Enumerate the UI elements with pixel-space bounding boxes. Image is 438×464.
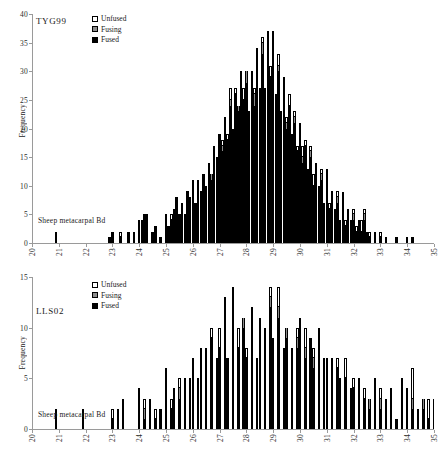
histogram-bar xyxy=(363,388,365,429)
y-tick-mark xyxy=(29,129,32,130)
bar-segment-fused xyxy=(111,419,113,429)
bar-segment-fused xyxy=(178,399,180,429)
bar-segment-unfused xyxy=(336,358,338,368)
bar-segment-fused xyxy=(55,232,57,243)
histogram-bar xyxy=(427,399,429,429)
x-tick-mark xyxy=(166,244,167,247)
x-tick-label: 22 xyxy=(82,434,91,442)
histogram-bar xyxy=(326,358,328,429)
x-tick-mark xyxy=(434,430,435,433)
x-tick-mark xyxy=(112,430,113,433)
y-tick-label: 15 xyxy=(20,153,28,162)
histogram-bar xyxy=(200,348,202,429)
bar-segment-fusing xyxy=(245,71,247,82)
x-tick-label: 35 xyxy=(430,434,438,442)
legend-swatch-unfused-icon xyxy=(92,16,98,22)
histogram-bar xyxy=(173,388,175,429)
bar-segment-unfused xyxy=(218,328,220,348)
x-tick-label: 33 xyxy=(376,434,385,442)
x-tick-label: 31 xyxy=(323,434,332,442)
bar-segment-fused xyxy=(146,232,148,243)
histogram-bar xyxy=(331,358,333,429)
bar-segment-fused xyxy=(374,232,376,243)
bar-segment-fused xyxy=(422,409,424,429)
y-tick-mark xyxy=(29,378,32,379)
bar-segment-unfused xyxy=(256,48,258,59)
bar-segment-fused xyxy=(149,399,151,429)
x-tick-mark xyxy=(220,244,221,247)
bar-segment-unfused xyxy=(352,209,354,215)
bar-segment-unfused xyxy=(320,169,322,175)
x-tick-label: 29 xyxy=(269,434,278,442)
x-tick-mark xyxy=(246,430,247,433)
bar-segment-fused xyxy=(363,399,365,429)
histogram-bar xyxy=(111,409,113,429)
histogram-bar xyxy=(154,226,156,243)
bar-segment-unfused xyxy=(229,88,231,99)
bar-segment-fusing xyxy=(315,163,317,169)
legend-item-fusing: Fusing xyxy=(92,25,126,34)
x-axis-line xyxy=(32,243,434,244)
bar-segment-unfused xyxy=(385,399,387,419)
bar-segment-fused xyxy=(299,328,301,429)
y-tick-label: 20 xyxy=(20,124,28,133)
bar-segment-fused xyxy=(200,358,202,429)
histogram-bar xyxy=(159,409,161,429)
bar-segment-unfused xyxy=(146,214,148,231)
x-tick-mark xyxy=(300,430,301,433)
y-tick-label: 30 xyxy=(20,67,28,76)
histogram-bar xyxy=(395,419,397,429)
bar-segment-fused xyxy=(154,226,156,243)
x-tick-mark xyxy=(407,430,408,433)
bar-segment-fusing xyxy=(379,399,381,409)
histogram-bar xyxy=(111,232,113,243)
bar-segment-fused xyxy=(133,232,135,243)
y-tick-mark xyxy=(29,157,32,158)
x-tick-mark xyxy=(354,244,355,247)
x-tick-label: 34 xyxy=(403,248,412,256)
y-tick-mark xyxy=(29,328,32,329)
y-tick-mark xyxy=(29,214,32,215)
bar-segment-unfused xyxy=(293,111,295,117)
bar-segment-fusing xyxy=(272,37,274,48)
y-tick-label: 15 xyxy=(20,273,28,282)
legend-label-fused: Fused xyxy=(101,301,119,310)
y-tick-mark xyxy=(29,277,32,278)
x-tick-mark xyxy=(112,244,113,247)
histogram-bar xyxy=(55,232,57,243)
histogram-bar xyxy=(285,328,287,429)
x-tick-mark xyxy=(273,244,274,247)
bar-segment-fusing xyxy=(411,399,413,409)
bar-segment-unfused xyxy=(232,287,234,297)
bar-segment-fusing xyxy=(242,318,244,328)
bar-segment-fused xyxy=(245,358,247,429)
histogram-bar xyxy=(178,378,180,429)
bar-segment-fused xyxy=(352,388,354,429)
bar-segment-unfused xyxy=(326,169,328,180)
x-tick-label: 24 xyxy=(135,248,144,256)
y-axis-title-lls02: Frequency xyxy=(18,336,27,369)
histogram-bar xyxy=(352,378,354,429)
bar-segment-fused xyxy=(226,358,228,429)
histogram-bar xyxy=(259,318,261,429)
legend-label-unfused: Unfused xyxy=(101,14,126,23)
bar-segment-unfused xyxy=(363,209,365,215)
bar-segment-fusing xyxy=(232,297,234,307)
bar-segment-unfused xyxy=(138,388,140,408)
histogram-bar xyxy=(232,287,234,429)
x-tick-mark xyxy=(86,244,87,247)
histogram-bar xyxy=(165,368,167,429)
histogram-bar xyxy=(339,378,341,429)
bar-segment-fused xyxy=(411,409,413,429)
bar-segment-fused xyxy=(304,358,306,429)
bar-segment-fused xyxy=(165,399,167,429)
x-tick-mark xyxy=(139,244,140,247)
legend-label-fusing: Fusing xyxy=(101,25,121,34)
histogram-bar xyxy=(184,378,186,429)
x-tick-mark xyxy=(86,430,87,433)
x-tick-mark xyxy=(380,244,381,247)
x-tick-mark xyxy=(327,244,328,247)
bar-segment-fused xyxy=(339,399,341,429)
bar-segment-unfused xyxy=(178,378,180,388)
annotation-lls02: Sheep metacarpal Bd xyxy=(38,410,106,419)
